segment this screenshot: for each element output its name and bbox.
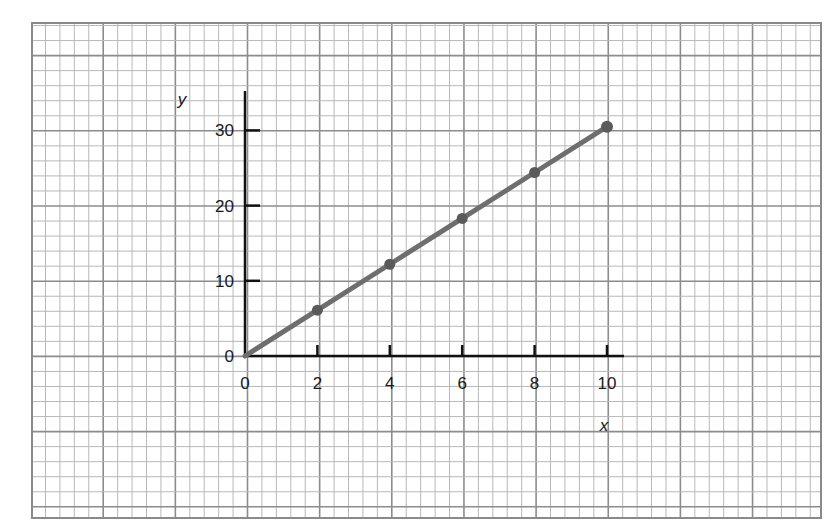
data-point bbox=[457, 213, 468, 224]
data-point bbox=[601, 121, 613, 133]
graph-paper-chart: 02468100102030 x y bbox=[0, 0, 838, 532]
data-point bbox=[384, 259, 395, 270]
x-tick-label: 2 bbox=[313, 374, 322, 393]
grid-border bbox=[32, 23, 821, 518]
x-tick-label: 10 bbox=[598, 374, 617, 393]
tick-labels: 02468100102030 bbox=[215, 121, 616, 393]
x-tick-label: 6 bbox=[457, 374, 466, 393]
x-axis-label: x bbox=[599, 416, 609, 435]
data-point bbox=[312, 305, 323, 316]
x-tick-label: 0 bbox=[240, 374, 249, 393]
y-tick-label: 30 bbox=[215, 121, 234, 140]
y-tick-label: 10 bbox=[215, 272, 234, 291]
x-tick-label: 8 bbox=[530, 374, 539, 393]
graph-paper-grid bbox=[32, 23, 821, 518]
x-tick-label: 4 bbox=[385, 374, 394, 393]
data-point bbox=[529, 167, 540, 178]
y-axis-label: y bbox=[177, 90, 188, 109]
y-tick-label: 0 bbox=[225, 347, 234, 366]
data-series bbox=[245, 121, 613, 356]
y-tick-label: 20 bbox=[215, 197, 234, 216]
